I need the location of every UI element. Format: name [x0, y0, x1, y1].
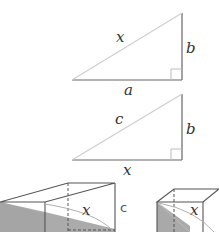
triangle-2-hypotenuse: [72, 94, 182, 160]
triangle-1-vertical-label: b: [186, 39, 196, 57]
triangle-2-vertical-label: b: [186, 120, 196, 138]
box-right-top-face: [157, 189, 219, 202]
diagram-canvas: x b a c b x x c: [0, 0, 219, 232]
box-right: x: [157, 189, 219, 232]
triangle-1-base-label: a: [124, 81, 133, 99]
triangle-2-base-label: x: [123, 161, 132, 179]
box-left-diagonal-label: x: [82, 201, 91, 219]
triangle-1-right-angle-icon: [171, 69, 182, 80]
triangle-1: x b a: [72, 13, 196, 99]
triangle-1-hypotenuse-label: x: [116, 28, 125, 46]
triangle-2-hypotenuse-label: c: [115, 110, 124, 128]
box-left: x c: [0, 183, 127, 232]
triangle-1-hypotenuse: [72, 13, 182, 80]
box-left-top-face: [0, 183, 115, 202]
triangle-2: c b x: [72, 94, 196, 179]
box-right-diagonal-label: x: [190, 201, 199, 219]
box-left-edge-label: c: [120, 200, 127, 215]
triangle-2-right-angle-icon: [171, 149, 182, 160]
